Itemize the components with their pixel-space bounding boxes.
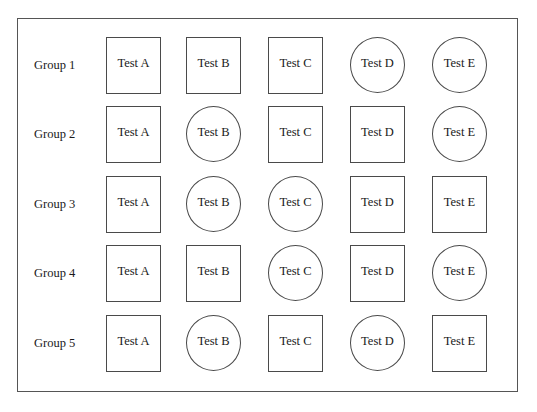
group-row: Group 2Test ATest BTest CTest DTest E <box>0 106 537 163</box>
test-node-square: Test A <box>106 245 161 302</box>
test-node-circle: Test E <box>432 245 487 301</box>
test-label: Test D <box>361 264 394 279</box>
test-label: Test D <box>361 334 394 349</box>
test-node-circle: Test D <box>350 315 405 371</box>
test-node-circle: Test C <box>268 245 323 301</box>
test-node-circle: Test D <box>350 37 405 93</box>
group-row: Group 4Test ATest BTest CTest DTest E <box>0 245 537 302</box>
test-label: Test C <box>279 56 311 71</box>
test-node-square: Test C <box>268 37 323 94</box>
test-label: Test B <box>197 264 229 279</box>
group-row: Group 1Test ATest BTest CTest DTest E <box>0 37 537 94</box>
test-label: Test E <box>444 264 475 279</box>
test-label: Test D <box>361 56 394 71</box>
test-label: Test C <box>279 264 311 279</box>
test-node-circle: Test E <box>432 37 487 93</box>
test-label: Test D <box>361 195 394 210</box>
test-node-square: Test A <box>106 176 161 233</box>
test-label: Test B <box>197 195 229 210</box>
test-node-square: Test C <box>268 106 323 163</box>
group-label: Group 1 <box>34 37 75 94</box>
group-row: Group 5Test ATest BTest CTest DTest E <box>0 315 537 372</box>
test-node-square: Test E <box>432 315 487 372</box>
group-label: Group 4 <box>34 245 75 302</box>
test-label: Test D <box>361 125 394 140</box>
test-label: Test A <box>117 334 149 349</box>
group-label: Group 2 <box>34 106 75 163</box>
test-label: Test E <box>444 334 475 349</box>
test-node-square: Test A <box>106 315 161 372</box>
test-label: Test C <box>279 334 311 349</box>
test-label: Test C <box>279 195 311 210</box>
test-node-circle: Test C <box>268 176 323 232</box>
test-node-square: Test D <box>350 106 405 163</box>
test-node-square: Test A <box>106 106 161 163</box>
test-node-square: Test A <box>106 37 161 94</box>
group-label: Group 5 <box>34 315 75 372</box>
test-label: Test E <box>444 56 475 71</box>
test-node-square: Test D <box>350 176 405 233</box>
test-node-circle: Test B <box>186 176 241 232</box>
group-label: Group 3 <box>34 176 75 233</box>
test-node-square: Test C <box>268 315 323 372</box>
test-node-square: Test B <box>186 245 241 302</box>
test-label: Test A <box>117 56 149 71</box>
test-label: Test E <box>444 195 475 210</box>
test-node-square: Test D <box>350 245 405 302</box>
test-label: Test C <box>279 125 311 140</box>
test-label: Test A <box>117 264 149 279</box>
test-node-circle: Test B <box>186 106 241 162</box>
test-label: Test B <box>197 56 229 71</box>
test-node-circle: Test E <box>432 106 487 162</box>
test-label: Test A <box>117 195 149 210</box>
test-label: Test A <box>117 125 149 140</box>
test-node-square: Test E <box>432 176 487 233</box>
test-label: Test B <box>197 125 229 140</box>
test-node-square: Test B <box>186 37 241 94</box>
test-label: Test B <box>197 334 229 349</box>
test-node-circle: Test B <box>186 315 241 371</box>
test-label: Test E <box>444 125 475 140</box>
group-row: Group 3Test ATest BTest CTest DTest E <box>0 176 537 233</box>
